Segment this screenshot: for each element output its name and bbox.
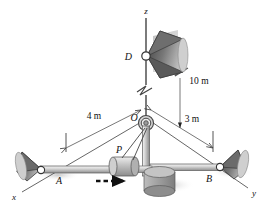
axis-label-x: x: [11, 192, 16, 202]
point-label-b: B: [206, 173, 212, 184]
axis-label-y: y: [251, 188, 256, 198]
point-label-a: A: [55, 175, 63, 186]
point-label-o: O: [130, 112, 137, 123]
dimension-label-3m: 3 m: [185, 114, 200, 124]
point-label-p: P: [115, 144, 122, 155]
cone-fixture-d: [142, 30, 188, 78]
dimension-label-4m: 4 m: [87, 111, 102, 121]
cylinder-base: [144, 167, 175, 197]
collar-p: [109, 157, 139, 176]
axis-label-z: z: [143, 6, 148, 16]
dimension-label-10m: 10 m: [189, 76, 209, 86]
mechanics-diagram: z x y D O P A B 4 m 3 m 10 m: [0, 0, 276, 212]
point-label-d: D: [124, 51, 133, 62]
dimension-3m: [151, 110, 213, 152]
